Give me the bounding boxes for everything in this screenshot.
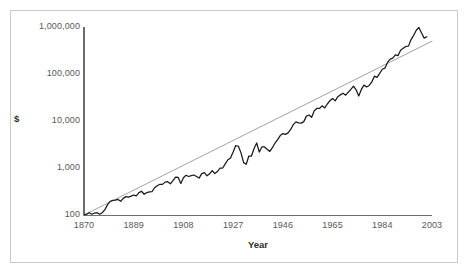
y-tick-label: 1,000,000	[39, 21, 80, 31]
y-tick-label: 10,000	[52, 115, 80, 125]
y-tick-label: 100	[65, 209, 80, 219]
x-tick-label: 1984	[357, 220, 407, 230]
axes-lines	[84, 27, 432, 216]
chart-figure: 1001,00010,000100,0001,000,000 187018891…	[0, 0, 468, 274]
x-tick-label: 1927	[208, 220, 258, 230]
chart-plot-area	[0, 0, 468, 274]
x-tick-label: 1908	[158, 220, 208, 230]
trend-line	[84, 41, 432, 215]
x-tick-label: 1946	[258, 220, 308, 230]
data-series-line	[84, 28, 427, 215]
y-tick-label: 100,000	[47, 68, 80, 78]
x-tick-label: 1870	[59, 220, 109, 230]
y-tick-label: 1,000	[57, 162, 80, 172]
y-axis-title: $	[14, 113, 19, 124]
x-tick-label: 2003	[407, 220, 457, 230]
x-axis-title: Year	[208, 239, 308, 250]
x-tick-label: 1965	[308, 220, 358, 230]
x-tick-label: 1889	[109, 220, 159, 230]
